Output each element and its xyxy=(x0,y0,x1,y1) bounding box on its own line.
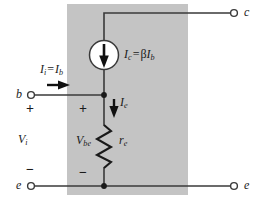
polarity-vbe-plus: + xyxy=(79,102,87,116)
terminal-ring-emitter-right[interactable] xyxy=(231,183,238,190)
arrow-right-icon-input xyxy=(47,80,70,89)
junction-dot-icon-base xyxy=(101,92,107,98)
terminal-label-collector: c xyxy=(244,6,249,18)
terminal-label-base: b xyxy=(16,88,22,100)
emitter-resistance-subscript: e xyxy=(124,139,128,148)
polarity-vbe-minus: − xyxy=(79,166,87,180)
input-current-subscript-2: b xyxy=(59,68,63,77)
terminal-ring-emitter-left[interactable] xyxy=(28,183,35,190)
circuit-schematic xyxy=(0,0,263,209)
input-voltage-label: Vi xyxy=(18,133,28,145)
terminal-ring-collector[interactable] xyxy=(231,10,238,17)
terminal-ring-base[interactable] xyxy=(28,92,35,99)
terminal-label-emitter-right: e xyxy=(244,179,249,191)
junction-dot-icon-emitter xyxy=(101,183,107,189)
emitter-resistance-label: re xyxy=(119,134,127,146)
base-emitter-voltage-subscript: be xyxy=(83,139,91,148)
figure-canvas: b e c e Ii=Ib Ic=βIb Ie Vi Vbe re + − + … xyxy=(0,0,263,209)
polarity-vi-plus: + xyxy=(26,102,34,116)
emitter-current-subscript: e xyxy=(124,101,128,110)
terminal-label-emitter-left: e xyxy=(16,179,21,191)
emitter-current-label: Ie xyxy=(120,96,128,108)
input-current-equals: = xyxy=(46,62,55,76)
collector-current-subscript-2: b xyxy=(151,53,155,62)
polarity-vi-minus: − xyxy=(26,163,34,177)
input-voltage-subscript: i xyxy=(25,138,27,147)
collector-current-label: Ic=βIb xyxy=(124,48,155,60)
base-emitter-voltage-label: Vbe xyxy=(76,134,91,146)
input-current-label: Ii=Ib xyxy=(40,63,63,75)
